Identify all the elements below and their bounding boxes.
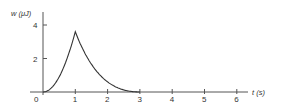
x-tick-label: 2 [105, 95, 110, 104]
y-axis-label: w (μJ) [11, 9, 32, 18]
x-tick-label: 1 [73, 95, 78, 104]
x-axis-label: t (s) [252, 88, 265, 97]
axes [30, 12, 248, 95]
x-tick-label: 0 [34, 95, 39, 104]
y-tick-label: 4 [33, 21, 38, 30]
x-tick-label: 5 [202, 95, 207, 104]
x-tick-label: 3 [137, 95, 142, 104]
y-tick-label: 2 [33, 55, 38, 64]
x-tick-label: 4 [170, 95, 175, 104]
chart: 012345624 w (μJ) t (s) [0, 0, 281, 109]
energy-curve [43, 32, 140, 92]
x-tick-label: 6 [234, 95, 239, 104]
